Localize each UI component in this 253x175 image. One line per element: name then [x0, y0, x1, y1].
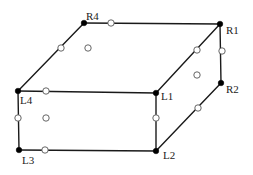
edge-midpoint-node-icon: [153, 115, 159, 121]
vertex-r1-icon: [217, 21, 223, 27]
edge-r4-r1: [84, 23, 220, 24]
vertices-layer: [15, 20, 224, 154]
edge-midpoint-node-icon: [108, 20, 114, 26]
vertex-label-r2: R2: [226, 83, 239, 95]
vertex-l4-icon: [15, 88, 21, 94]
edge-l3-l2: [19, 150, 156, 151]
face-node-icon: [43, 115, 49, 121]
vertex-l1-icon: [153, 90, 159, 96]
vertex-l2-icon: [153, 148, 159, 154]
vertex-label-r1: R1: [226, 24, 239, 36]
labels-layer: R4R1R2L1L4L3L2: [20, 10, 239, 166]
edge-r4-l4: [18, 23, 84, 91]
edge-midpoint-node-icon: [58, 45, 64, 51]
edge-midpoint-node-icon: [43, 88, 49, 94]
vertex-label-l4: L4: [20, 94, 33, 106]
vertex-label-l1: L1: [161, 90, 173, 102]
box-diagram: R4R1R2L1L4L3L2: [0, 0, 253, 175]
vertex-label-r4: R4: [86, 10, 99, 22]
vertex-r2-icon: [218, 80, 224, 86]
open-nodes-layer: [15, 20, 225, 153]
edge-midpoint-node-icon: [15, 115, 21, 121]
edge-r1-l1: [156, 24, 220, 93]
face-node-icon: [194, 72, 200, 78]
edges-layer: [18, 23, 221, 151]
vertex-label-l2: L2: [163, 149, 175, 161]
vertex-l3-icon: [16, 147, 22, 153]
edge-l4-l1: [18, 91, 156, 93]
edge-midpoint-node-icon: [194, 47, 200, 53]
edge-midpoint-node-icon: [195, 105, 201, 111]
vertex-label-l3: L3: [22, 154, 35, 166]
edge-midpoint-node-icon: [42, 147, 48, 153]
edge-midpoint-node-icon: [219, 48, 225, 54]
face-node-icon: [85, 45, 91, 51]
